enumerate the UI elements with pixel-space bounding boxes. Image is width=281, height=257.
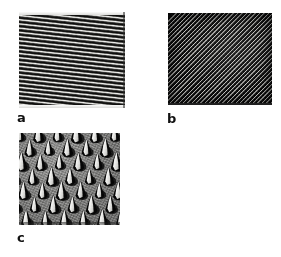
panel-a-line-grating <box>19 12 125 108</box>
panel-a-right-edge <box>123 12 125 108</box>
panel-a-top-edge <box>19 12 125 15</box>
panel-b-dot-array <box>168 13 272 105</box>
panel-c-bottom-edge <box>19 222 120 225</box>
panel-c-cone-array <box>19 133 120 225</box>
dot-array-lattice <box>168 13 272 105</box>
panel-label-b: b <box>167 112 176 125</box>
figure-root: a b c <box>0 0 281 257</box>
panel-b-bottom-edge <box>168 103 272 105</box>
cone-array-layer <box>19 133 120 225</box>
panel-a-bottom-edge <box>19 105 125 108</box>
grating-stripes <box>19 12 125 108</box>
panel-label-a: a <box>17 111 26 124</box>
panel-label-c: c <box>17 231 25 244</box>
